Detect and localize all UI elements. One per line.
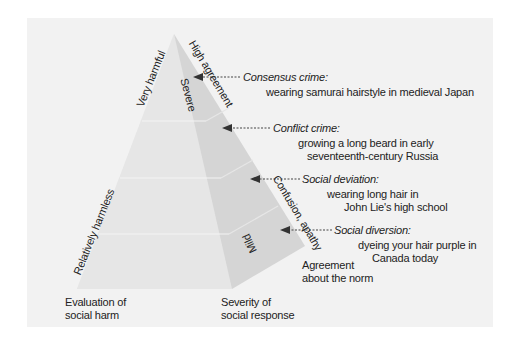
caption-agreement-1: Agreement [302, 259, 354, 272]
level-example-deviation-2: John Lie's high school [344, 201, 448, 214]
level-title-diversion: Social diversion: [334, 224, 411, 237]
caption-evaluation-1: Evaluation of [65, 296, 126, 309]
caption-severity-1: Severity of [221, 296, 271, 309]
arrow-conflict [222, 124, 270, 132]
level-title-consensus: Consensus crime: [243, 71, 328, 84]
level-example-deviation-1: wearing long hair in [327, 188, 418, 201]
level-example-conflict-1: growing a long beard in early [298, 137, 433, 150]
level-example-diversion-2: Canada today [372, 252, 438, 265]
caption-evaluation-2: social harm [65, 309, 119, 322]
level-example-consensus: wearing samurai hairstyle in medieval Ja… [266, 86, 474, 99]
level-title-deviation: Social deviation: [302, 173, 379, 186]
level-title-conflict: Conflict crime: [273, 122, 340, 135]
level-example-conflict-2: seventeenth-century Russia [307, 150, 438, 163]
pyramid [0, 0, 519, 343]
caption-agreement-2: about the norm [302, 272, 373, 285]
level-example-diversion-1: dyeing your hair purple in [358, 239, 476, 252]
caption-severity-2: social response [221, 309, 294, 322]
